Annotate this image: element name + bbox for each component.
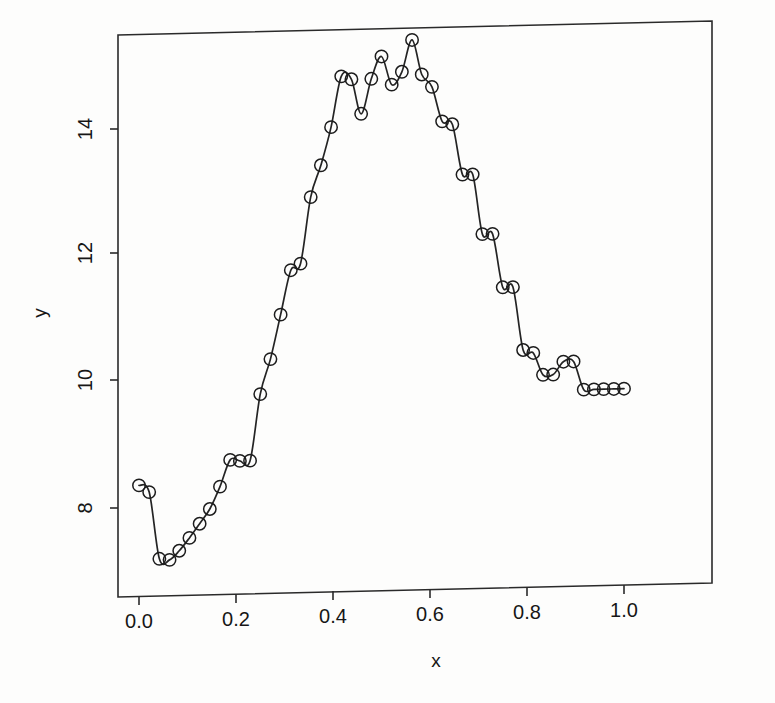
x-tick-label-0-8: 0.8 [513,601,541,623]
y-axis-tick-labels: 14 12 10 8 [74,118,96,514]
x-tick-label-0-2: 0.2 [222,608,250,630]
x-tick-label-1-0: 1.0 [610,599,638,621]
plot-border [118,21,712,597]
x-axis-tick-labels: 0.0 0.2 0.4 0.6 0.8 1.0 [125,599,638,632]
data-point-markers [133,34,630,566]
y-axis-ticks [110,129,118,508]
x-tick-label-0-6: 0.6 [416,603,444,625]
x-axis-title: x [431,650,441,671]
y-axis-title: y [29,308,50,318]
scatter-plot-figure: 14 12 10 8 0.0 0.2 0.4 0.6 0.8 1.0 y x [0,0,775,703]
x-tick-label-0-4: 0.4 [319,605,347,627]
plot-frame [118,21,712,597]
plot-svg: 14 12 10 8 0.0 0.2 0.4 0.6 0.8 1.0 y x [0,0,775,703]
x-tick-label-0: 0.0 [125,610,153,632]
y-tick-label-14: 14 [74,118,96,140]
y-tick-label-12: 12 [74,242,96,264]
data-layer [133,34,630,566]
fitted-smooth-curve [139,40,624,565]
y-tick-label-8: 8 [74,502,96,513]
y-tick-label-10: 10 [74,369,96,391]
